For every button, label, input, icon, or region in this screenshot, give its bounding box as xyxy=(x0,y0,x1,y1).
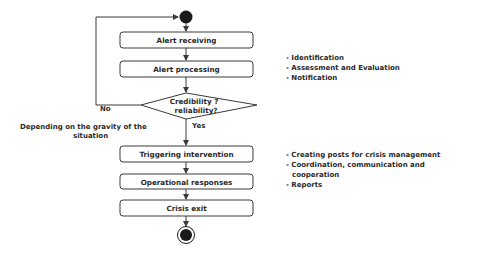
processing-notes: - Identification - Assessment and Evalua… xyxy=(286,53,400,83)
note-item: - Coordination, communication and xyxy=(286,160,440,170)
note-item: cooperation xyxy=(286,170,440,180)
gravity-label-line2: situation xyxy=(73,132,108,140)
activity-label: Alert processing xyxy=(153,65,219,74)
activity-alert-processing: Alert processing xyxy=(120,61,253,77)
intervention-notes: - Creating posts for crisis management -… xyxy=(286,150,440,190)
activity-label: Triggering intervention xyxy=(139,150,233,159)
note-item: - Assessment and Evaluation xyxy=(286,63,400,73)
activity-label: Alert receiving xyxy=(157,36,217,45)
yes-label: Yes xyxy=(191,122,205,130)
decision-line1: Credibility ? xyxy=(170,97,219,106)
note-item: - Reports xyxy=(286,180,440,190)
activity-triggering-intervention: Triggering intervention xyxy=(120,146,253,162)
flowchart-canvas: Alert receiving Alert processing Credibi… xyxy=(0,0,479,259)
activity-label: Operational responses xyxy=(141,178,233,187)
activity-label: Crisis exit xyxy=(166,204,207,213)
note-item: - Creating posts for crisis management xyxy=(286,150,440,160)
note-item: - Notification xyxy=(286,73,400,83)
decision-credibility: Credibility ? reliability? xyxy=(141,93,257,119)
activity-crisis-exit: Crisis exit xyxy=(120,200,253,216)
decision-line2: reliability? xyxy=(174,106,217,115)
activity-alert-receiving: Alert receiving xyxy=(120,32,253,48)
no-label: No xyxy=(100,105,111,113)
note-item: - Identification xyxy=(286,53,400,63)
gravity-label-line1: Depending on the gravity of the xyxy=(20,123,147,131)
end-node xyxy=(178,227,195,244)
activity-operational-responses: Operational responses xyxy=(120,174,253,189)
start-node xyxy=(180,11,193,24)
